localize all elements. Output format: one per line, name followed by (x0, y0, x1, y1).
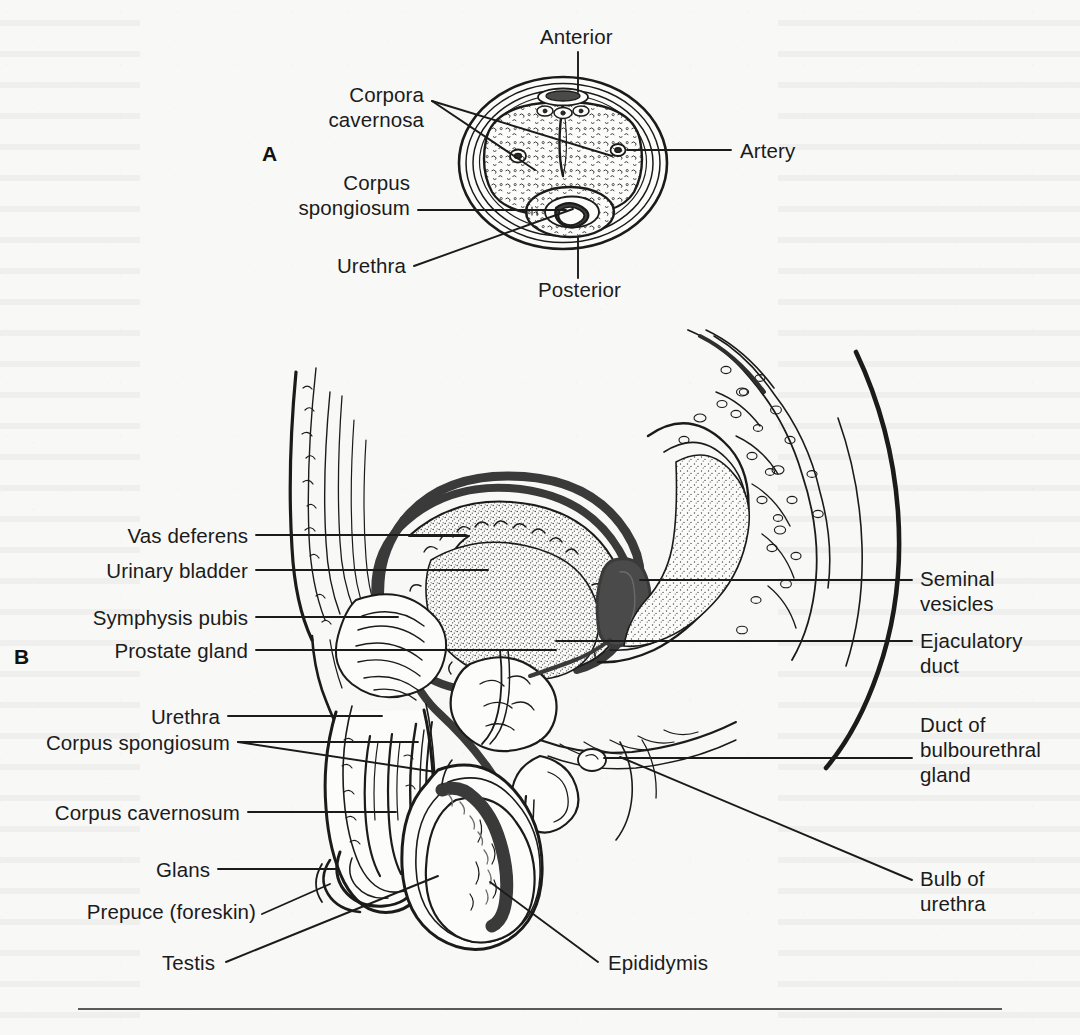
label-corpus-spongiosum-b: Corpus spongiosum (20, 730, 230, 755)
label-urinary-bladder: Urinary bladder (44, 558, 248, 583)
label-duct-of-bulbourethral-gland: Duct of bulbourethral gland (920, 712, 1041, 787)
label-corpus-spongiosum-a: Corpus spongiosum (192, 170, 410, 220)
label-corpus-cavernosum: Corpus cavernosum (20, 800, 240, 825)
label-ejaculatory-duct: Ejaculatory duct (920, 628, 1023, 678)
label-glans: Glans (20, 857, 210, 882)
label-seminal-vesicles: Seminal vesicles (920, 566, 995, 616)
label-posterior: Posterior (538, 277, 621, 302)
label-corpora-cavernosa: Corpora cavernosa (192, 82, 424, 132)
panel-letter-a: A (262, 142, 277, 166)
label-urethra-a: Urethra (192, 253, 406, 278)
panel-b-drawing (218, 330, 912, 962)
label-epididymis: Epididymis (608, 950, 708, 975)
label-symphysis-pubis: Symphysis pubis (44, 605, 248, 630)
label-urethra-b: Urethra (20, 704, 220, 729)
label-testis: Testis (162, 950, 215, 975)
label-anterior: Anterior (540, 24, 613, 49)
label-prepuce-foreskin: Prepuce (foreskin) (20, 899, 256, 924)
abdominal-fascia-marks (302, 386, 331, 624)
label-artery: Artery (740, 138, 795, 163)
label-prostate-gland: Prostate gland (44, 638, 248, 663)
panel-letter-b: B (14, 645, 29, 669)
label-vas-deferens: Vas deferens (44, 523, 248, 548)
label-bulb-of-urethra: Bulb of urethra (920, 866, 986, 916)
panel-a-drawing (414, 52, 731, 278)
